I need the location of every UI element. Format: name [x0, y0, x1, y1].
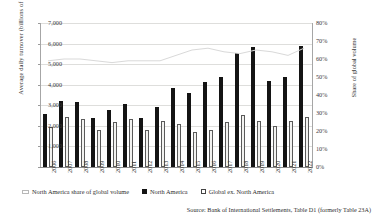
- legend-label: North America share of global volume: [32, 188, 129, 195]
- x-axis-tick-label: 2020: [274, 161, 281, 173]
- x-axis-tick-label: 2017: [226, 161, 233, 173]
- x-axis-tick-label: 2012: [146, 161, 153, 173]
- bar-north-america: [59, 101, 64, 167]
- y-axis-right-title: Share of global volume: [350, 3, 357, 133]
- x-axis-tick-label: 2008: [82, 161, 89, 173]
- bar-global-ex-north-america: [129, 119, 134, 167]
- y-axis-tick-mark: [38, 126, 40, 127]
- bar-north-america: [203, 82, 208, 167]
- y-axis-right-tick-label: 50%: [316, 73, 342, 80]
- x-axis-tick-label: 2011: [130, 161, 137, 173]
- gridline: [40, 44, 312, 45]
- bar-global-ex-north-america: [305, 117, 310, 167]
- x-axis-line: [40, 167, 313, 168]
- bar-north-america: [139, 118, 144, 167]
- x-axis-tick-label: 2018: [242, 161, 249, 173]
- chart-legend: North America share of global volumeNort…: [22, 188, 362, 195]
- y-axis-right-line: [312, 23, 313, 167]
- x-axis-tick-label: 2022: [306, 161, 313, 173]
- y-axis-right-tick-label: 60%: [316, 55, 342, 62]
- x-axis-tick-label: 2019: [258, 161, 265, 173]
- bar-global-ex-north-america: [65, 117, 70, 167]
- y-axis-right-tick-label: 30%: [316, 109, 342, 116]
- x-axis-tick-label: 2013: [162, 161, 169, 173]
- x-axis-tick-label: 2015: [194, 161, 201, 173]
- legend-item: Global ex. North America: [201, 188, 274, 195]
- line-path-share: [48, 48, 304, 62]
- x-axis-tick-label: 2014: [178, 161, 185, 173]
- x-axis-tick-label: 2007: [66, 161, 73, 173]
- bar-north-america: [91, 118, 96, 167]
- y-axis-tick-mark: [38, 44, 40, 45]
- y-axis-right-tick-label: 0%: [316, 163, 342, 170]
- y-axis-right-tick-label: 80%: [316, 19, 342, 26]
- y-axis-right-tick-label: 20%: [316, 127, 342, 134]
- bar-global-ex-north-america: [241, 115, 246, 167]
- x-axis-tick-label: 2016: [210, 161, 217, 173]
- y-axis-left-title: Average daily turnover (billions of USD): [17, 0, 24, 120]
- bar-north-america: [235, 53, 240, 167]
- bar-north-america: [171, 88, 176, 167]
- line-swatch: [22, 190, 29, 194]
- y-axis-tick-mark: [38, 85, 40, 86]
- y-axis-tick-mark: [38, 23, 40, 24]
- bar-north-america: [107, 110, 112, 167]
- white-square-swatch: [201, 189, 206, 194]
- bar-north-america: [123, 104, 128, 167]
- bar-north-america: [283, 77, 288, 168]
- bar-north-america: [155, 107, 160, 167]
- y-axis-tick-mark: [38, 146, 40, 147]
- y-axis-right-tick-label: 10%: [316, 145, 342, 152]
- legend-label: Global ex. North America: [209, 188, 274, 195]
- gridline: [40, 23, 312, 24]
- black-square-swatch: [142, 189, 147, 194]
- bar-north-america: [267, 81, 272, 167]
- bar-north-america: [299, 46, 304, 167]
- x-axis-tick-label: 2010: [114, 161, 121, 173]
- bar-north-america: [187, 93, 192, 167]
- bar-north-america: [75, 102, 80, 167]
- x-axis-tick-label: 2009: [98, 161, 105, 173]
- gridline: [40, 64, 312, 65]
- source-note: Source: Bank of International Settlement…: [187, 206, 371, 213]
- legend-item: North America: [142, 188, 188, 195]
- bar-north-america: [219, 77, 224, 168]
- y-axis-tick-mark: [38, 64, 40, 65]
- legend-item: North America share of global volume: [22, 188, 129, 195]
- legend-label: North America: [150, 188, 188, 195]
- y-axis-tick-mark: [38, 167, 40, 168]
- y-axis-tick-mark: [38, 105, 40, 106]
- x-axis-tick-label: 2021: [290, 161, 297, 173]
- plot-area: 2006200720082009201020112012201320142015…: [40, 23, 312, 167]
- y-axis-right-tick-label: 40%: [316, 91, 342, 98]
- y-axis-right-tick-label: 70%: [316, 37, 342, 44]
- bar-north-america: [251, 47, 256, 167]
- chart-figure: Average daily turnover (billions of USD)…: [0, 0, 377, 221]
